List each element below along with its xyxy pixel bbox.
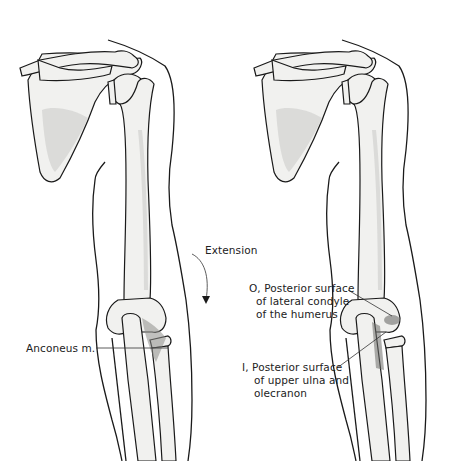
origin-label-line-1: O, Posterior surface xyxy=(249,282,355,295)
left-arm-illustration xyxy=(20,40,210,461)
insertion-label-line-1: I, Posterior surface xyxy=(242,361,342,374)
extension-label: Extension xyxy=(205,244,257,257)
arm-illustrations xyxy=(0,0,468,461)
insertion-label-line-3: olecranon xyxy=(254,387,307,400)
origin-label-line-2: of lateral condyle xyxy=(256,295,349,308)
insertion-label-line-2: of upper ulna and xyxy=(254,374,349,387)
extension-arrow xyxy=(192,254,207,300)
extension-arrowhead xyxy=(202,296,210,304)
origin-marker xyxy=(384,315,400,325)
anconeus-label: Anconeus m. xyxy=(26,342,95,355)
origin-label-line-3: of the humerus xyxy=(256,308,338,321)
anconeus-diagram: Extension Anconeus m. O, Posterior surfa… xyxy=(0,0,468,461)
